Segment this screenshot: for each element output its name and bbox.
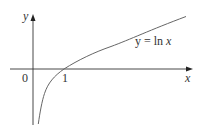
y-axis-arrow-icon: [31, 14, 36, 21]
equation-label: y = ln x: [135, 34, 172, 48]
ln-graph: y x 0 1 y = ln x: [0, 0, 201, 129]
equation-var: x: [165, 34, 172, 48]
y-axis-label: y: [22, 9, 29, 23]
ln-curve: [38, 17, 186, 125]
equation-lhs: y = ln: [135, 34, 166, 48]
origin-label: 0: [22, 71, 28, 85]
tick-label-1: 1: [62, 71, 68, 85]
x-axis-label: x: [184, 71, 191, 85]
